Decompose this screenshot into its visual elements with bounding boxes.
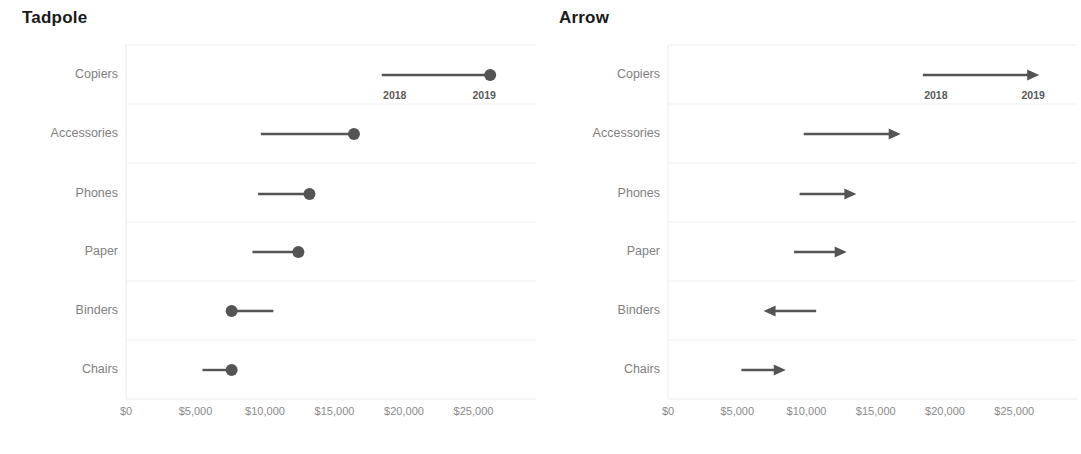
data-mark [382,69,496,81]
tadpole-head-dot [348,128,360,140]
arrow-head [774,365,786,376]
category-label: Copiers [617,67,660,81]
tadpole-head-dot [226,305,238,317]
chart-panel-tadpole: Tadpole CopiersAccessoriesPhonesPaperBin… [0,0,540,454]
tadpole-head-dot [303,188,315,200]
data-mark [804,129,901,140]
x-tick-label: $10,000 [787,405,827,417]
category-label: Chairs [82,362,118,376]
category-label: Phones [76,186,118,200]
plot-area-arrow: CopiersAccessoriesPhonesPaperBindersChai… [541,0,1081,454]
arrow-head [764,306,776,317]
chart-page: Tadpole CopiersAccessoriesPhonesPaperBin… [0,0,1081,454]
category-label: Chairs [624,362,660,376]
data-mark [226,305,274,317]
year-label-end: 2019 [1022,89,1046,101]
plot-area-tadpole: CopiersAccessoriesPhonesPaperBindersChai… [0,0,540,454]
x-tick-label: $25,000 [994,405,1034,417]
data-mark [258,188,315,200]
data-mark [764,306,817,317]
arrow-head [844,189,856,200]
chart-panel-arrow: Arrow CopiersAccessoriesPhonesPaperBinde… [541,0,1081,454]
year-label-end: 2019 [473,89,497,101]
x-tick-label: $15,000 [856,405,896,417]
arrow-head [889,129,901,140]
category-label: Accessories [593,126,660,140]
data-mark [923,70,1039,81]
plot-svg-arrow: CopiersAccessoriesPhonesPaperBindersChai… [541,0,1081,454]
data-mark [261,128,360,140]
x-tick-label: $10,000 [245,405,285,417]
x-tick-label: $5,000 [179,405,213,417]
data-mark [800,189,857,200]
year-label-start: 2018 [383,89,407,101]
category-label: Copiers [75,67,118,81]
arrow-head [835,247,847,258]
tadpole-head-dot [226,364,238,376]
x-tick-label: $0 [662,405,674,417]
x-tick-label: $0 [120,405,132,417]
data-mark [741,365,785,376]
category-label: Phones [618,186,660,200]
arrow-head [1027,70,1039,81]
tadpole-head-dot [484,69,496,81]
category-label: Paper [85,244,118,258]
category-label: Accessories [51,126,118,140]
x-tick-label: $20,000 [384,405,424,417]
data-mark [202,364,237,376]
category-label: Binders [618,303,660,317]
data-mark [252,246,304,258]
data-mark [794,247,847,258]
year-label-start: 2018 [924,89,948,101]
x-tick-label: $20,000 [925,405,965,417]
x-tick-label: $15,000 [315,405,355,417]
x-tick-label: $25,000 [454,405,494,417]
plot-svg-tadpole: CopiersAccessoriesPhonesPaperBindersChai… [0,0,540,454]
category-label: Binders [76,303,118,317]
category-label: Paper [627,244,660,258]
tadpole-head-dot [292,246,304,258]
x-tick-label: $5,000 [720,405,754,417]
